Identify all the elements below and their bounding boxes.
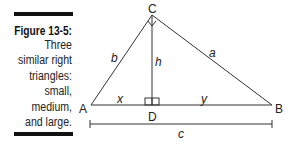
side-label-h: h [155, 55, 162, 69]
vertex-label-d: D [148, 110, 157, 124]
vertex-label-c: C [148, 2, 157, 16]
vertex-label-b: B [275, 102, 283, 116]
side-label-b: b [111, 51, 118, 65]
side-label-x: x [116, 92, 124, 106]
right-triangle-diagram: C A B D b a h x y c [0, 0, 296, 146]
side-label-y: y [200, 92, 208, 106]
side-a [152, 15, 272, 105]
side-label-a: a [209, 46, 216, 60]
side-label-c: c [178, 127, 184, 141]
vertex-label-a: A [79, 102, 87, 116]
